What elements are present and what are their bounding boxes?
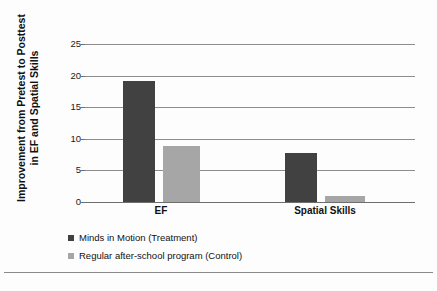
legend-swatch-control-icon [68,253,74,259]
bar-spatial-treatment [285,153,317,202]
y-axis-title: Improvement from Pretest to Posttest in … [0,0,56,215]
legend-swatch-treatment-icon [68,235,74,241]
x-axis-tick-labels: EF Spatial Skills [85,205,415,221]
gridline-20 [85,76,415,77]
y-axis-title-line-1: Improvement from Pretest to Posttest [15,14,27,202]
legend-label-control: Regular after-school program (Control) [79,250,242,261]
gridline-25 [85,44,415,45]
legend-label-treatment: Minds in Motion (Treatment) [79,232,197,243]
legend-item-control: Regular after-school program (Control) [68,248,388,263]
x-tick-label-ef: EF [111,205,211,216]
bar-spatial-control [325,196,365,202]
legend-item-treatment: Minds in Motion (Treatment) [68,230,388,245]
y-tick-label-10: 10 [59,134,81,144]
y-axis-title-line-2: in EF and Spatial Skills [28,14,41,202]
axis-baseline-0 [85,202,415,203]
bar-ef-treatment [123,81,155,202]
x-tick-label-spatial: Spatial Skills [265,205,385,216]
bar-chart-figure: Improvement from Pretest to Posttest in … [0,0,437,291]
y-axis-tick-labels: 25 20 15 10 5 0 [55,44,81,202]
plot-area [85,44,415,202]
y-tick-label-0: 0 [59,197,81,207]
y-tick-label-25: 25 [59,39,81,49]
y-tick-label-15: 15 [59,102,81,112]
bottom-divider [4,272,433,273]
chart-legend: Minds in Motion (Treatment) Regular afte… [68,230,388,266]
bar-ef-control [163,146,200,202]
y-tick-label-5: 5 [59,165,81,175]
y-tick-label-20: 20 [59,71,81,81]
